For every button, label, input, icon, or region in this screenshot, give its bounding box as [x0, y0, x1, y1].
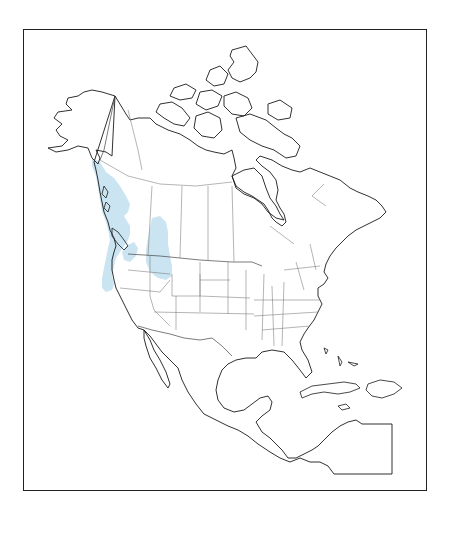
- baja-california: [144, 330, 170, 388]
- hudson-bay: [232, 168, 284, 220]
- us-mexico-border: [138, 326, 232, 356]
- subnational-borders: [100, 110, 326, 346]
- alaska-canada-border: [100, 96, 115, 160]
- north-america-map: [0, 0, 451, 551]
- range-layer: [92, 158, 172, 292]
- caribbean-islands: [300, 348, 402, 410]
- arctic-islands: [156, 46, 300, 158]
